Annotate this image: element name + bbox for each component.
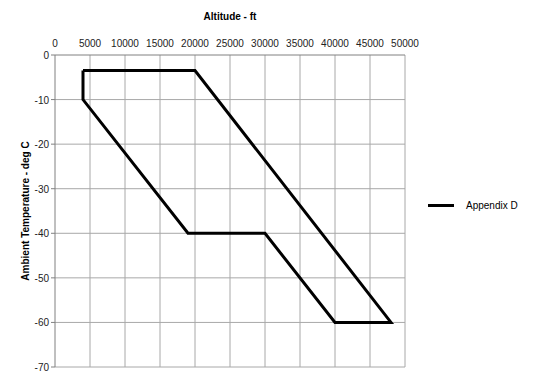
- x-tick-label: 0: [52, 38, 58, 49]
- x-tick-label: 40000: [321, 38, 349, 49]
- x-tick-label: 30000: [251, 38, 279, 49]
- legend-line-icon: [428, 204, 454, 207]
- x-tick-label: 50000: [391, 38, 419, 49]
- x-tick-label: 20000: [181, 38, 209, 49]
- y-tick-label: -20: [35, 139, 50, 150]
- y-axis-title: Ambient Temperature - deg C: [20, 141, 31, 280]
- chart: 0500010000150002000025000300003500040000…: [0, 0, 539, 388]
- x-tick-label: 5000: [79, 38, 102, 49]
- y-tick-label: -50: [35, 273, 50, 284]
- x-tick-label: 35000: [286, 38, 314, 49]
- gridlines: [55, 55, 405, 367]
- y-tick-label: -40: [35, 228, 50, 239]
- y-tick-label: 0: [43, 50, 49, 61]
- series-appendix-d: [83, 71, 391, 323]
- x-axis-title: Altitude - ft: [204, 11, 257, 22]
- y-tick-label: -10: [35, 95, 50, 106]
- series-line: [83, 71, 391, 323]
- x-tick-label: 10000: [111, 38, 139, 49]
- x-tick-label: 15000: [146, 38, 174, 49]
- y-tick-label: -70: [35, 362, 50, 373]
- x-axis-ticks: 0500010000150002000025000300003500040000…: [52, 38, 419, 49]
- y-tick-label: -30: [35, 184, 50, 195]
- y-tick-label: -60: [35, 317, 50, 328]
- legend: Appendix D: [428, 200, 518, 211]
- y-axis-ticks: 0-10-20-30-40-50-60-70: [35, 50, 55, 373]
- x-tick-label: 25000: [216, 38, 244, 49]
- x-tick-label: 45000: [356, 38, 384, 49]
- legend-label: Appendix D: [466, 200, 518, 211]
